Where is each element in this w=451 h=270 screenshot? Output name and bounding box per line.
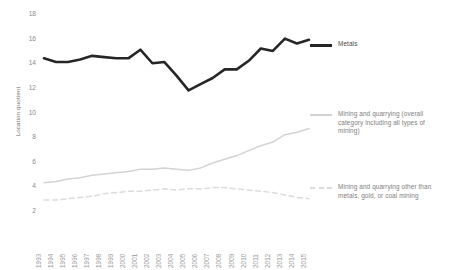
y-tick-label: 16	[14, 35, 36, 43]
y-tick-label: 6	[14, 158, 36, 166]
x-tick-label: 2004	[167, 254, 174, 268]
x-tick-label: 1999	[107, 254, 114, 268]
legend-item: Mining and quarrying other than metals, …	[310, 183, 438, 200]
legend-swatch-solid-icon	[310, 44, 332, 47]
x-tick-label: 2013	[276, 254, 283, 268]
y-tick-label: 10	[14, 109, 36, 117]
legend-item: Mining and quarrying (overall category i…	[310, 110, 438, 136]
x-tick-label: 1998	[95, 254, 102, 268]
y-tick-label: 18	[14, 10, 36, 18]
plot-area	[44, 14, 309, 211]
y-tick-label: 2	[14, 207, 36, 215]
x-tick-label: 2000	[119, 254, 126, 268]
legend-swatch-solid-icon	[310, 114, 332, 116]
x-tick-label: 1996	[71, 254, 78, 268]
series-line-2	[44, 188, 309, 200]
x-tick-label: 2009	[228, 254, 235, 268]
y-tick-label: 4	[14, 182, 36, 190]
x-tick-label: 2003	[155, 254, 162, 268]
y-tick-label: 12	[14, 84, 36, 92]
series-line-1	[44, 129, 309, 183]
line-chart: Location quotient 18161412108642 1993199…	[0, 0, 451, 270]
x-tick-label: 2008	[215, 254, 222, 268]
series-line-0	[44, 39, 309, 91]
x-tick-label: 2014	[288, 254, 295, 268]
y-axis-tick-labels: 18161412108642	[10, 0, 36, 270]
x-tick-label: 1993	[35, 254, 42, 268]
legend-item: Metals	[310, 40, 438, 49]
x-tick-label: 1997	[83, 254, 90, 268]
x-tick-label: 2006	[191, 254, 198, 268]
x-axis-tick-labels: 1993199419951996199719981999200020012002…	[44, 213, 309, 268]
x-tick-label: 2015	[300, 254, 307, 268]
x-tick-label: 2001	[131, 254, 138, 268]
y-tick-label: 14	[14, 59, 36, 67]
x-tick-label: 1995	[59, 254, 66, 268]
legend-label: Metals	[338, 40, 438, 49]
x-tick-label: 2007	[203, 254, 210, 268]
x-tick-label: 2010	[240, 254, 247, 268]
legend-label: Mining and quarrying (overall category i…	[338, 110, 438, 136]
legend-swatch-dashed-icon	[310, 187, 332, 189]
x-tick-label: 2002	[143, 254, 150, 268]
chart-legend: MetalsMining and quarrying (overall cate…	[310, 0, 451, 270]
legend-label: Mining and quarrying other than metals, …	[338, 183, 438, 200]
x-tick-label: 2012	[264, 254, 271, 268]
y-tick-label: 8	[14, 133, 36, 141]
x-tick-label: 2005	[179, 254, 186, 268]
x-tick-label: 2011	[252, 254, 259, 268]
plot-svg	[44, 14, 309, 211]
x-tick-label: 1994	[47, 254, 54, 268]
